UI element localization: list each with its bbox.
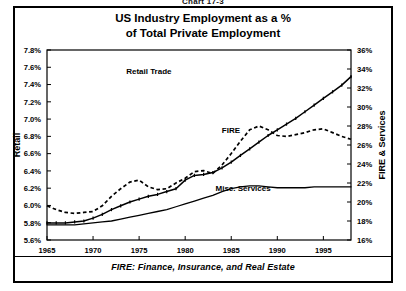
y2-axis-tick-label: 30% — [357, 103, 372, 112]
y-axis-tick-label: 7.2% — [24, 98, 42, 107]
y-axis-tick-label: 7.8% — [24, 46, 42, 55]
y-axis-tick-label: 6.0% — [24, 201, 42, 210]
y2-axis-title: FIRE & Services — [377, 110, 387, 179]
series-annotation-fire: FIRE — [222, 126, 241, 135]
y-axis-tick-label: 5.8% — [24, 219, 42, 228]
y2-axis-tick-label: 20% — [357, 198, 372, 207]
x-axis-tick-label: 1970 — [85, 246, 102, 255]
y-axis-tick-label: 6.2% — [24, 184, 42, 193]
y2-axis-tick-label: 34% — [357, 65, 372, 74]
y2-axis-tick-label: 26% — [357, 141, 372, 150]
y-axis-tick-label: 7.4% — [24, 80, 42, 89]
y2-axis-tick-label: 22% — [357, 179, 372, 188]
x-axis-tick-label: 1995 — [315, 246, 333, 255]
series-annotation-misc-services: Misc. Services — [216, 184, 272, 193]
y-axis-tick-label: 7.6% — [24, 63, 42, 72]
y2-axis-tick-label: 32% — [357, 84, 372, 93]
y2-axis-tick-label: 18% — [357, 217, 372, 226]
y-axis-title: Retail — [12, 133, 22, 158]
chart-footnote: FIRE: Finance, Insurance, and Real Estat… — [13, 262, 393, 272]
x-axis-tick-label: 1990 — [269, 246, 286, 255]
chart-plot-svg: 5.6%5.8%6.0%6.2%6.4%6.6%6.8%7.0%7.2%7.4%… — [0, 0, 406, 291]
y2-axis-tick-label: 24% — [357, 160, 372, 169]
y2-axis-tick-label: 36% — [357, 46, 372, 55]
x-axis-tick-label: 1985 — [223, 246, 241, 255]
chart-figure: Chart 17-3 US Industry Employment as a %… — [0, 0, 406, 291]
y-axis-tick-label: 6.8% — [24, 132, 42, 141]
y-axis-tick-label: 6.4% — [24, 167, 42, 176]
y2-axis-tick-label: 28% — [357, 122, 372, 131]
series-annotation-retail-trade: Retail Trade — [126, 67, 172, 76]
y-axis-tick-label: 5.6% — [24, 236, 42, 245]
y-axis-tick-label: 7.0% — [24, 115, 42, 124]
y-axis-tick-label: 6.6% — [24, 149, 42, 158]
x-axis-tick-label: 1980 — [177, 246, 194, 255]
y2-axis-tick-label: 16% — [357, 236, 372, 245]
x-axis-tick-label: 1975 — [131, 246, 149, 255]
series-line-fire — [47, 77, 351, 223]
x-axis-tick-label: 1965 — [39, 246, 57, 255]
footnote-divider — [15, 256, 391, 257]
